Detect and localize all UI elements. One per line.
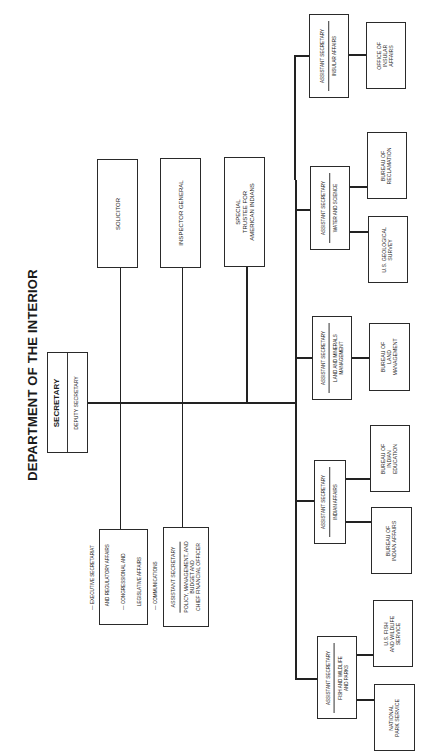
- asst-sec-land-box: ASSISTANT SECRETARY LAND AND MINERALS MA…: [312, 316, 352, 400]
- connector-inspector-general: [182, 268, 184, 528]
- connector-spine: [294, 55, 296, 180]
- chart-title: DEPARTMENT OF THE INTERIOR: [25, 269, 40, 481]
- deputy-secretary-label: DEPUTY SECRETARY: [74, 376, 80, 430]
- nps-box: NATIONAL PARK SERVICE: [374, 684, 415, 751]
- asst-sec-indian-box: ASSISTANT SECRETARY INDIAN AFFAIRS: [314, 460, 346, 544]
- usgs-box: U.S. GEOLOGICAL SURVEY: [368, 216, 408, 283]
- connector-reclamation: [350, 186, 367, 188]
- asst-sec-insular-box: ASSISTANT SECRETARY INSULAR AFFAIRS: [309, 14, 349, 98]
- fws-box: U.S. FISH AND WILDLIFE SERVICE: [373, 600, 413, 667]
- secretary-label: SECRETARY: [53, 378, 62, 426]
- asst-sec-water-box: ASSISTANT SECRETARY WATER AND SCIENCE: [310, 166, 350, 250]
- connector-fws: [357, 654, 373, 656]
- inspector-general-label: INSPECTOR GENERAL: [177, 180, 184, 245]
- connector-fish: [297, 678, 317, 680]
- asst-sec-pmb-label: ASSISTANT SECRETARY POLICY, MANAGEMENT, …: [171, 541, 202, 612]
- connector-insular: [294, 55, 309, 57]
- connector-nps: [357, 699, 374, 701]
- connector-special-trustee: [246, 267, 248, 403]
- bureau-indian-affairs-box: BUREAU OF INDIAN AFFAIRS: [371, 507, 412, 574]
- asst-sec-fish-box: ASSISTANT SECRETARY FISH AND WILDLIFE AN…: [317, 636, 357, 719]
- connector-spine-lower: [295, 180, 297, 680]
- connector-solicitor: [120, 268, 122, 530]
- solicitor-label: SOLICITOR: [114, 197, 121, 229]
- connector-indian: [296, 500, 314, 502]
- connector-usgs: [350, 231, 368, 233]
- special-trustee-label: SPECIAL TRUSTEE FOR AMERICAN INDIANS: [234, 183, 255, 241]
- asst-sec-pmb-box: ASSISTANT SECRETARY POLICY, MANAGEMENT, …: [163, 527, 209, 627]
- connector-bia: [345, 521, 371, 523]
- connector-blm: [352, 357, 369, 359]
- bureau-reclamation-box: BUREAU OF RECLAMATION: [367, 132, 407, 199]
- connector-water: [295, 209, 310, 211]
- bureau-indian-education-box: BUREAU OF INDIAN EDUCATION: [370, 425, 410, 492]
- executive-offices-box: — EXECUTIVE SECRETARIAT AND REGULATORY A…: [99, 529, 148, 625]
- connector-land: [296, 357, 312, 359]
- office-insular-affairs-box: OFFICE OF INSULAR AFFAIRS: [366, 22, 406, 89]
- connector-office-insular: [349, 54, 366, 56]
- connector-bie: [345, 478, 370, 480]
- solicitor-box: SOLICITOR: [97, 159, 138, 268]
- special-trustee-box: SPECIAL TRUSTEE FOR AMERICAN INDIANS: [224, 157, 265, 267]
- blm-box: BUREAU OF LAND MANAGEMENT: [369, 323, 410, 391]
- secretary-box: SECRETARY DEPUTY SECRETARY: [47, 352, 88, 453]
- inspector-general-box: INSPECTOR GENERAL: [160, 158, 201, 268]
- connector-secretary-main: [87, 402, 296, 404]
- executive-offices-list: — EXECUTIVE SECRETARIAT AND REGULATORY A…: [79, 544, 169, 610]
